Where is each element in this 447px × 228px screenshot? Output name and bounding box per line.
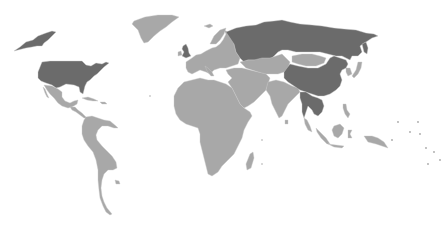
island-dot — [433, 151, 435, 153]
island-dot — [417, 121, 419, 123]
world-map: Alaska (US) Greenland United States Mexi… — [0, 0, 447, 228]
island-dot — [397, 121, 399, 123]
island-dot — [425, 147, 427, 149]
island-dot — [391, 139, 393, 141]
island-dot — [149, 95, 151, 97]
region-sri-lanka[interactable]: Sri Lanka — [285, 120, 288, 124]
island-dot — [261, 139, 263, 141]
island-dot — [409, 131, 411, 133]
island-dot — [439, 159, 441, 161]
island-dot — [419, 133, 421, 135]
island-dot — [261, 163, 263, 165]
island-dot — [427, 163, 429, 165]
